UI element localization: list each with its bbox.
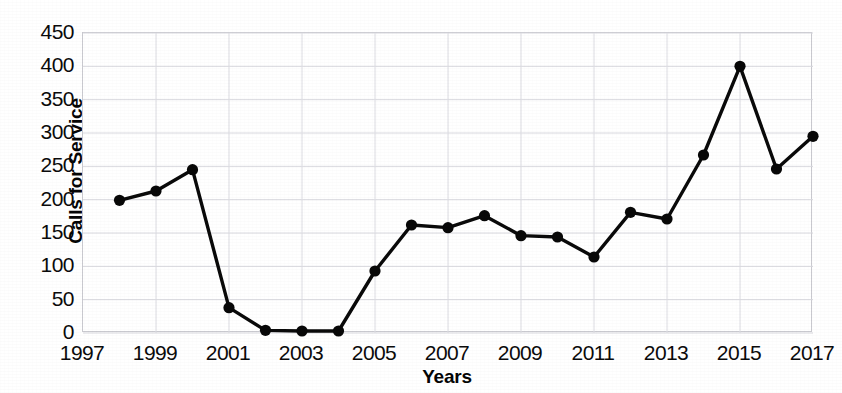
data-point: [333, 325, 344, 336]
x-axis-tick-label: 2017: [767, 341, 842, 365]
data-point: [552, 231, 563, 242]
x-axis-title: Years: [82, 366, 812, 388]
data-point: [698, 149, 709, 160]
data-point: [260, 325, 271, 336]
vertical-gridlines: [156, 33, 740, 333]
data-point: [479, 210, 490, 221]
plot-svg: [83, 33, 813, 333]
y-axis-tick-label: 200: [12, 188, 74, 209]
data-point: [771, 163, 782, 174]
data-point: [625, 207, 636, 218]
data-point: [406, 219, 417, 230]
y-axis-tick-label: 50: [12, 288, 74, 309]
series-markers: [114, 61, 819, 337]
data-point: [150, 185, 161, 196]
series-line-calls-for-service: [120, 66, 814, 331]
data-point: [807, 131, 818, 142]
y-axis-tick-label: 400: [12, 54, 74, 75]
data-point: [223, 302, 234, 313]
y-axis-tick-label: 300: [12, 121, 74, 142]
data-point: [187, 164, 198, 175]
y-axis-tick-label: 450: [12, 21, 74, 42]
data-point: [515, 230, 526, 241]
plot-area: [82, 32, 812, 332]
data-point: [442, 222, 453, 233]
y-axis-tick-label: 100: [12, 254, 74, 275]
data-point: [588, 251, 599, 262]
data-point: [114, 195, 125, 206]
y-axis-tick-label: 0: [12, 321, 74, 342]
data-point: [369, 265, 380, 276]
data-point: [661, 213, 672, 224]
line-chart: Calls for Service 0501001502002503003504…: [0, 0, 842, 393]
data-point: [734, 61, 745, 72]
y-axis-tick-label: 350: [12, 88, 74, 109]
y-axis-tick-label: 150: [12, 221, 74, 242]
data-point: [296, 325, 307, 336]
y-axis-tick-labels: 050100150200250300350400450: [8, 0, 74, 393]
y-axis-tick-label: 250: [12, 154, 74, 175]
